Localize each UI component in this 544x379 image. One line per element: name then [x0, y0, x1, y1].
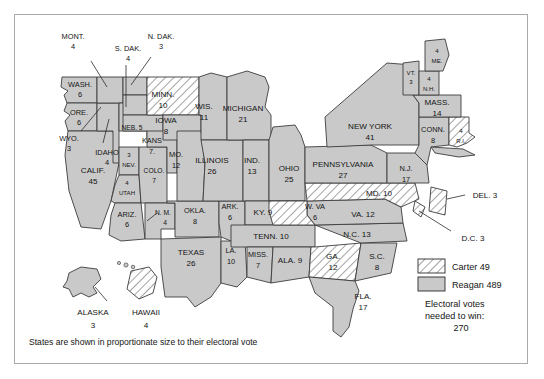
- label-ind-votes: 13: [247, 167, 257, 176]
- state-hawaii[interactable]: [127, 267, 157, 299]
- label-nj: N.J.: [399, 164, 412, 173]
- state-me[interactable]: [425, 39, 449, 71]
- label-vt: VT.: [407, 69, 416, 76]
- state-ga[interactable]: [309, 243, 361, 281]
- legend-label-reagan: Reagan 489: [452, 280, 502, 290]
- label-idaho: IDAHO: [95, 148, 119, 157]
- legend-swatch-carter: [418, 259, 445, 273]
- label-miss-votes: 7: [256, 261, 260, 270]
- label-nc: N.C. 13: [343, 230, 371, 239]
- leader-dc: [419, 211, 451, 231]
- label-ga: GA.: [326, 252, 340, 261]
- label-penn: PENNSYLVANIA: [313, 160, 374, 169]
- label-okla: OKLA.: [184, 206, 206, 215]
- label-ind: IND.: [244, 156, 260, 165]
- label-conn: CONN.: [421, 125, 445, 134]
- label-sdak: S. DAK.: [115, 44, 141, 53]
- label-alaska: ALASKA: [77, 308, 109, 317]
- state-fla[interactable]: [309, 277, 359, 337]
- label-hawaii-votes: 4: [144, 321, 149, 330]
- label-fla: FLA.: [354, 292, 371, 301]
- state-ala[interactable]: [271, 247, 311, 283]
- label-mo-votes: 12: [172, 161, 180, 170]
- label-sc: S.C.: [369, 252, 385, 261]
- label-sc-votes: 8: [375, 263, 380, 272]
- label-ore-votes: 6: [77, 118, 81, 127]
- label-mich-votes: 21: [238, 115, 248, 124]
- label-iowa-votes: 8: [164, 127, 169, 136]
- label-ohio-votes: 25: [284, 175, 294, 184]
- alaska-panhandle: [95, 287, 107, 301]
- state-mont[interactable]: [97, 77, 123, 103]
- label-minn-votes: 10: [158, 101, 168, 110]
- label-conn-votes: 8: [431, 136, 435, 145]
- label-wash: WASH.: [68, 80, 92, 89]
- state-del[interactable]: [429, 187, 447, 215]
- label-hawaii: HAWAII: [132, 308, 160, 317]
- label-okla-votes: 8: [193, 217, 197, 226]
- label-mass: MASS.: [424, 98, 449, 107]
- label-ariz-votes: 6: [125, 220, 129, 229]
- label-wyo-votes: 3: [67, 144, 71, 153]
- label-ny-votes: 41: [365, 133, 375, 142]
- label-kans: KANS: [142, 136, 162, 145]
- label-ill-votes: 26: [207, 167, 217, 176]
- label-ga-votes: 12: [328, 263, 338, 272]
- label-calif-votes: 45: [88, 177, 98, 186]
- label-wis-votes: 11: [200, 113, 209, 122]
- state-ohio[interactable]: [269, 125, 305, 201]
- label-utah: UTAH: [119, 189, 135, 196]
- hawaii-islet-1: [117, 261, 120, 264]
- label-minn: MINN.: [152, 90, 175, 99]
- label-colo-votes: 7: [152, 177, 156, 184]
- label-va: VA. 12: [351, 210, 375, 219]
- cape-cod-detail: [431, 147, 475, 157]
- label-ri: R.I.: [456, 137, 466, 144]
- label-ala: ALA. 9: [278, 256, 303, 265]
- label-me: ME.: [432, 57, 443, 64]
- label-texas: TEXAS: [178, 248, 205, 257]
- map-svg: MONT. 4 S. DAK. 4 N. DAK. 3 WYO. 3 WASH.…: [15, 15, 529, 365]
- label-mich: MICHIGAN: [223, 104, 264, 113]
- hawaii-islet-2: [124, 263, 128, 267]
- label-ndak: N. DAK.: [148, 32, 175, 41]
- legend-needed-line1: Electoral votes: [425, 299, 485, 309]
- label-ark: ARK.: [221, 202, 238, 211]
- label-idaho-votes: 4: [105, 158, 109, 167]
- state-sc[interactable]: [355, 243, 397, 281]
- label-kans-votes: 7.: [149, 147, 155, 156]
- state-sdak[interactable]: [123, 95, 147, 115]
- state-dc[interactable]: [413, 201, 425, 217]
- label-iowa: IOWA: [155, 116, 177, 125]
- label-ky: KY. 9: [254, 208, 273, 217]
- label-mont: MONT.: [62, 32, 85, 41]
- label-ark-votes: 6: [228, 213, 232, 222]
- label-sdak-votes: 4: [126, 54, 130, 63]
- label-miss: MISS.: [248, 250, 268, 259]
- label-la: LA.: [225, 246, 236, 255]
- label-del: DEL. 3: [473, 191, 498, 200]
- legend-swatch-reagan: [418, 277, 445, 291]
- label-wva: W. VA: [305, 202, 325, 211]
- label-ore: ORE.: [70, 108, 88, 117]
- state-alaska[interactable]: [63, 267, 101, 297]
- label-dc: D.C. 3: [462, 234, 485, 243]
- label-wash-votes: 6: [78, 90, 82, 99]
- leader-del: [447, 195, 465, 199]
- label-la-votes: 10: [227, 257, 235, 266]
- figure-frame: MONT. 4 S. DAK. 4 N. DAK. 3 WYO. 3 WASH.…: [14, 14, 528, 364]
- label-ariz: ARIZ.: [118, 210, 137, 219]
- label-md: MD. 10: [366, 189, 393, 198]
- label-wva-votes: 6: [313, 213, 317, 222]
- label-penn-votes: 27: [338, 171, 348, 180]
- label-colo: COLO.: [144, 167, 165, 174]
- state-mo[interactable]: [177, 131, 205, 201]
- hawaii-islet-3: [131, 265, 135, 269]
- label-wis: WIS.: [195, 102, 213, 111]
- label-calif: CALIF.: [81, 166, 105, 175]
- label-ill: ILLINOIS: [195, 156, 229, 165]
- label-mont-votes: 4: [71, 42, 75, 51]
- legend-label-carter: Carter 49: [452, 262, 490, 272]
- figure-caption: States are shown in proportionate size t…: [29, 337, 258, 347]
- electoral-cartogram: MONT. 4 S. DAK. 4 N. DAK. 3 WYO. 3 WASH.…: [15, 15, 529, 365]
